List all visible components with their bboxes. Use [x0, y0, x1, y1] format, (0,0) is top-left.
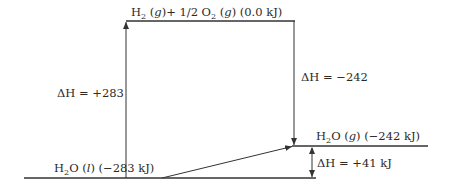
delta-h-vap-label: ΔH = +41 kJ — [317, 156, 392, 170]
enthalpy-diagram: H2 (g)+ 1/2 O2 (g) (0.0 kJ) H2O (g) (−24… — [0, 0, 449, 191]
delta-h-up-label: ΔH = +283 — [57, 86, 124, 100]
level-label-liquid: H2O (l) (−283 kJ) — [54, 161, 154, 177]
level-label-gas: H2O (g) (−242 kJ) — [316, 129, 420, 145]
arrow-slant-vaporization — [162, 147, 292, 179]
level-label-top: H2 (g)+ 1/2 O2 (g) (0.0 kJ) — [131, 5, 282, 21]
delta-h-down-label: ΔH = −242 — [301, 70, 368, 84]
